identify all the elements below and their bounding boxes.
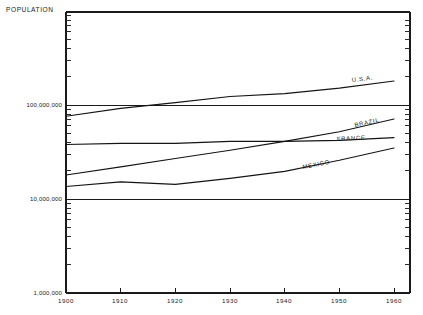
xtick-label-1900: 1900 (58, 297, 74, 304)
chart-title: POPULATION (6, 6, 54, 13)
gridlines (66, 105, 410, 199)
population-chart: POPULATION 100,000,000 10,000,000 1,000,… (0, 0, 423, 315)
right-axis-minor-ticks (405, 20, 410, 265)
series-label-france: FRANCE (337, 135, 366, 142)
ytick-label-10m: 10,000,000 (30, 196, 62, 202)
series-line-brazil (66, 119, 394, 175)
x-axis-ticks (66, 288, 394, 293)
chart-canvas: POPULATION 100,000,000 10,000,000 1,000,… (0, 0, 423, 315)
xtick-label-1950: 1950 (331, 297, 347, 304)
ytick-label-1m: 1,000,000 (34, 290, 63, 296)
xtick-label-1920: 1920 (167, 297, 183, 304)
ytick-label-100m: 100,000,000 (26, 102, 62, 108)
chart-frame (66, 12, 410, 293)
series-label-mexico: MEXICO (302, 159, 330, 170)
xtick-label-1930: 1930 (222, 297, 238, 304)
xtick-label-1960: 1960 (386, 297, 402, 304)
y-axis-minor-ticks (66, 15, 71, 265)
xtick-label-1940: 1940 (276, 297, 292, 304)
series-labels: U.S.A. BRAZIL FRANCE MEXICO (302, 75, 380, 170)
series-label-usa: U.S.A. (351, 75, 373, 83)
series-line-usa (66, 81, 394, 116)
series-group (66, 81, 394, 186)
series-label-brazil: BRAZIL (354, 117, 380, 128)
xtick-label-1910: 1910 (112, 297, 128, 304)
